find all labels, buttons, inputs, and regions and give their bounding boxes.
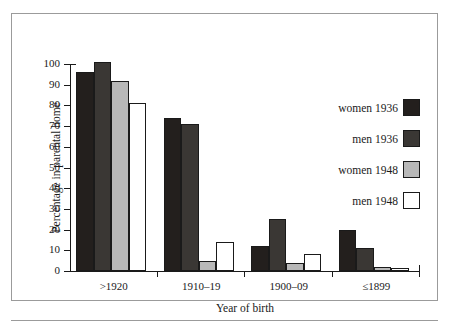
bar bbox=[391, 268, 409, 271]
legend-swatch bbox=[403, 130, 420, 147]
legend-label: men 1936 bbox=[352, 130, 398, 147]
y-tick-10: 10 bbox=[64, 250, 70, 251]
legend-label: women 1936 bbox=[338, 99, 398, 116]
x-tick-2 bbox=[332, 271, 333, 277]
y-tick-0: 0 bbox=[64, 271, 70, 272]
y-tick-50: 50 bbox=[64, 168, 70, 169]
bar bbox=[304, 254, 322, 271]
y-axis-title: Percentage in parental home bbox=[48, 64, 64, 271]
x-group-label-0: >1920 bbox=[70, 279, 158, 293]
x-group-label-2: 1900–09 bbox=[245, 279, 333, 293]
y-tick-90: 90 bbox=[64, 85, 70, 86]
x-group-label-1: 1910–19 bbox=[158, 279, 246, 293]
x-axis-line bbox=[70, 271, 420, 272]
legend-swatch bbox=[403, 99, 420, 116]
legend-item: women 1948 bbox=[300, 161, 420, 192]
bar bbox=[216, 242, 234, 271]
legend-item: men 1936 bbox=[300, 130, 420, 161]
legend-item: men 1948 bbox=[300, 192, 420, 223]
bar bbox=[356, 248, 374, 271]
y-tick-100: 100 bbox=[64, 64, 70, 65]
y-tick-60: 60 bbox=[64, 147, 70, 148]
legend: women 1936men 1936women 1948men 1948 bbox=[300, 99, 420, 223]
legend-label: men 1948 bbox=[352, 192, 398, 209]
bar bbox=[76, 72, 94, 271]
figure-bottom-rule bbox=[11, 320, 438, 321]
bar bbox=[129, 103, 147, 271]
legend-label: women 1948 bbox=[338, 161, 398, 178]
y-axis-top-cap bbox=[70, 64, 76, 65]
y-tick-30: 30 bbox=[64, 209, 70, 210]
x-group-label-3: ≤1899 bbox=[333, 279, 421, 293]
bar bbox=[269, 219, 287, 271]
y-axis-line bbox=[70, 64, 71, 271]
y-tick-20: 20 bbox=[64, 230, 70, 231]
bar bbox=[111, 81, 129, 271]
legend-item: women 1936 bbox=[300, 99, 420, 130]
y-tick-80: 80 bbox=[64, 105, 70, 106]
bar bbox=[286, 263, 304, 271]
bar bbox=[374, 267, 392, 271]
x-tick-3 bbox=[419, 271, 420, 277]
x-axis-title: Year of birth bbox=[70, 300, 420, 316]
bar bbox=[181, 124, 199, 271]
x-tick-0 bbox=[157, 271, 158, 277]
y-tick-70: 70 bbox=[64, 126, 70, 127]
bar bbox=[94, 62, 112, 271]
legend-swatch bbox=[403, 161, 420, 178]
legend-swatch bbox=[403, 192, 420, 209]
x-tick-1 bbox=[244, 271, 245, 277]
figure-root: 0102030405060708090100 >19201910–191900–… bbox=[0, 0, 451, 329]
bar bbox=[199, 261, 217, 271]
bar bbox=[251, 246, 269, 271]
bar bbox=[339, 230, 357, 271]
bar bbox=[164, 118, 182, 271]
y-tick-40: 40 bbox=[64, 188, 70, 189]
